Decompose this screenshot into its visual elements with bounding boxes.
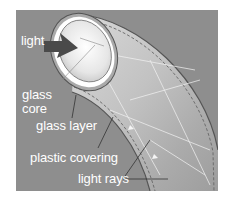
label-light-rays: light rays: [78, 172, 129, 185]
label-glass-layer: glass layer: [36, 119, 97, 132]
label-glass-core-line2: core: [22, 102, 47, 115]
label-plastic-covering: plastic covering: [30, 151, 118, 164]
label-glass-core-line1: glass: [22, 88, 52, 101]
label-light: light: [21, 34, 44, 47]
